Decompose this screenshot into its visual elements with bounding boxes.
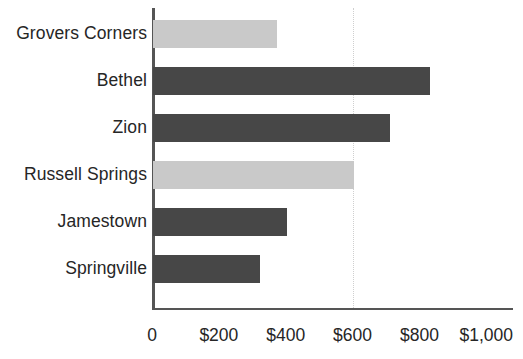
- category-label: Springville: [65, 260, 147, 278]
- gridline-600: [353, 8, 355, 308]
- category-label: Jamestown: [58, 213, 147, 231]
- x-tick-label: $400: [266, 327, 305, 345]
- x-tick-label: $800: [400, 327, 439, 345]
- x-tick-label: $200: [199, 327, 238, 345]
- x-axis-line: [152, 308, 513, 311]
- value-axis-labels: 0$200$400$600$800$1,000: [0, 327, 523, 355]
- category-label: Zion: [113, 119, 147, 137]
- bar: [153, 67, 430, 95]
- category-label: Grovers Corners: [16, 25, 147, 43]
- bar: [153, 161, 354, 189]
- bar: [153, 114, 390, 142]
- x-tick-label: $1,000: [459, 327, 513, 345]
- category-label: Russell Springs: [24, 166, 147, 184]
- bar: [153, 20, 277, 48]
- bar: [153, 255, 260, 283]
- category-axis-labels: Grovers CornersBethelZionRussell Springs…: [0, 0, 147, 310]
- x-tick-label: $600: [333, 327, 372, 345]
- bar: [153, 208, 287, 236]
- category-label: Bethel: [97, 72, 147, 90]
- bar-chart: Grovers CornersBethelZionRussell Springs…: [0, 0, 523, 359]
- x-tick-label: 0: [147, 327, 157, 345]
- plot-area: [152, 8, 513, 310]
